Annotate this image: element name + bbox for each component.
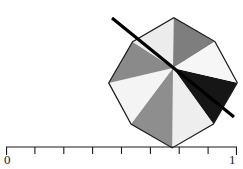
scale-label-min: 0 [4,153,11,166]
octagon-pinwheel-figure [0,0,243,169]
scale-label-max: 1 [229,153,236,166]
scale-bar [6,147,237,155]
pinwheel-sectors [109,18,238,148]
figure-canvas: 0 1 [0,0,243,169]
